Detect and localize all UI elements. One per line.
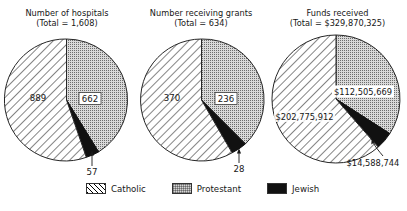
- legend-label-jewish: Jewish: [292, 184, 319, 194]
- pie-grants-label-jewish: 28: [234, 164, 245, 174]
- legend-item-catholic[interactable]: Catholic: [86, 183, 146, 194]
- legend-item-protestant[interactable]: Protestant: [172, 183, 241, 194]
- legend-swatch-catholic-icon: [86, 183, 106, 194]
- pie-grants-label-protestant: 236: [218, 94, 234, 104]
- pie-grants: 370 236 28: [141, 39, 265, 174]
- pie-chart-figure: Number of hospitals (Total = 1,608) Numb…: [0, 0, 407, 211]
- pie-grants-label-catholic: 370: [164, 93, 180, 103]
- legend-swatch-jewish-icon: [267, 183, 287, 194]
- legend-item-jewish[interactable]: Jewish: [267, 183, 319, 194]
- legend-label-protestant: Protestant: [197, 184, 241, 194]
- pies-canvas: 889 662 57 370 236 28: [0, 0, 407, 211]
- legend: Catholic Protestant Jewish: [86, 183, 319, 194]
- legend-label-catholic: Catholic: [111, 184, 146, 194]
- pie-funds-label-protestant: $112,505,669: [334, 87, 392, 97]
- pie-hospitals-label-catholic: 889: [30, 93, 46, 103]
- pie-hospitals-label-protestant: 662: [82, 94, 98, 104]
- pie-hospitals: 889 662 57: [4, 39, 127, 177]
- pie-funds-label-jewish: $14,588,744: [347, 158, 400, 168]
- legend-swatch-protestant-icon: [172, 183, 192, 194]
- pie-funds: $202,775,912 $112,505,669 $14,588,744: [272, 35, 400, 168]
- pie-hospitals-label-jewish: 57: [87, 167, 98, 177]
- pie-funds-label-catholic: $202,775,912: [275, 112, 333, 122]
